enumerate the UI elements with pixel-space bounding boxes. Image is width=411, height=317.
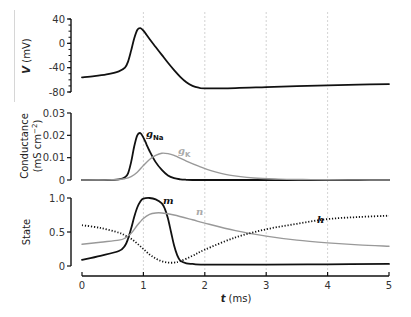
- x-tick-label: 1: [140, 280, 146, 291]
- conductance-panel: Conductance (mS cm−2) gNa gK 0.030.020.0…: [19, 108, 389, 186]
- v-curve: [82, 28, 389, 88]
- gna-curve: [82, 133, 389, 180]
- time-unit: (ms): [225, 293, 251, 304]
- y-tick-label: 0.01: [43, 152, 65, 163]
- gk-label-sub: K: [185, 151, 191, 159]
- conductance-axis-title-line2: (mS cm−2): [31, 120, 43, 173]
- y-tick-label: -40: [49, 62, 65, 73]
- time-axis: 012345: [79, 272, 392, 291]
- state-axis-title: State: [21, 219, 32, 245]
- conductance-unit-prefix: (mS cm: [32, 134, 43, 172]
- voltage-unit: (mV): [21, 38, 32, 66]
- x-tick-label: 2: [202, 280, 208, 291]
- y-tick-label: 0.5: [49, 227, 65, 238]
- gk-curve-label: gK: [178, 145, 191, 159]
- gna-label-sub: Na: [153, 134, 164, 142]
- x-tick-label: 3: [263, 280, 269, 291]
- gk-label-main: g: [178, 145, 185, 156]
- y-tick-label: 40: [52, 14, 65, 25]
- time-axis-title: t (ms): [221, 293, 252, 304]
- gna-label-main: g: [146, 128, 153, 139]
- m-curve-label: m: [163, 195, 174, 206]
- y-tick-label: 0.03: [43, 108, 65, 119]
- y-tick-label: 1.0: [49, 193, 65, 204]
- gk-curve: [82, 153, 389, 180]
- y-tick-label: 0: [59, 38, 65, 49]
- y-tick-label: -80: [49, 87, 65, 98]
- conductance-axis-title-line1: Conductance: [19, 113, 30, 179]
- gna-curve-label: gNa: [146, 128, 164, 142]
- conductance-unit-exponent: −2: [31, 124, 39, 134]
- y-tick-label: 0: [59, 261, 65, 272]
- x-tick-label: 4: [324, 280, 330, 291]
- y-tick-label: 0.02: [43, 130, 65, 141]
- x-tick-label: 5: [386, 280, 392, 291]
- hodgkin-huxley-figure: V (mV) 400-40-80 Conductance (mS cm−2) g…: [0, 0, 411, 317]
- n-curve-label: n: [196, 206, 203, 217]
- conductance-unit-suffix: ): [32, 120, 43, 124]
- x-tick-label: 0: [79, 280, 85, 291]
- voltage-axis-title: V (mV): [21, 38, 32, 73]
- y-tick-label: 0: [59, 175, 65, 186]
